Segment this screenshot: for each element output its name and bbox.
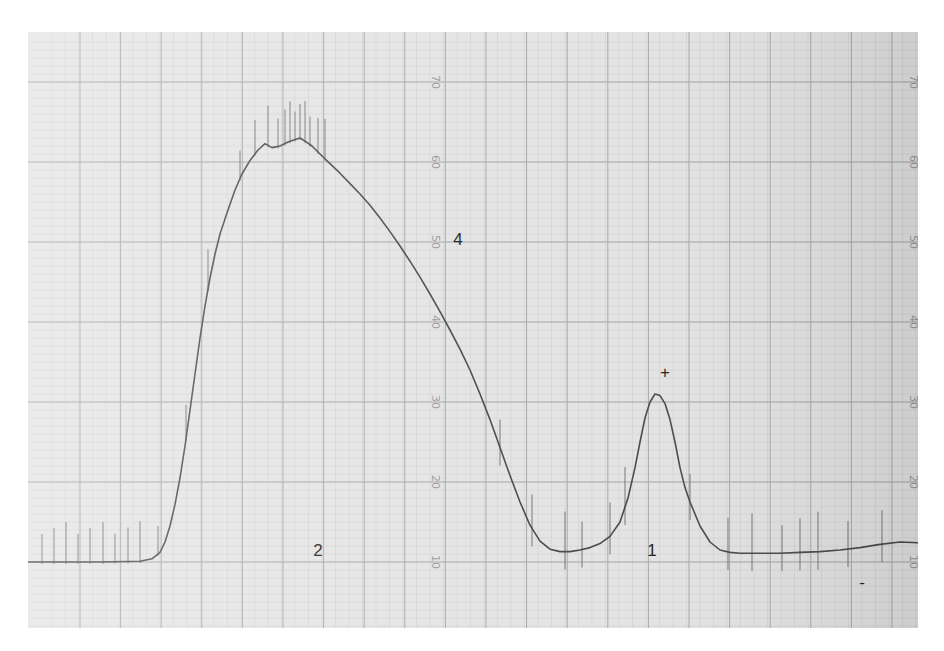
chart-paper: 1020304050607010203040506070 21+4- <box>28 32 918 628</box>
paper-shading <box>28 32 918 628</box>
strip-chart: 1020304050607010203040506070 21+4- <box>28 32 918 628</box>
